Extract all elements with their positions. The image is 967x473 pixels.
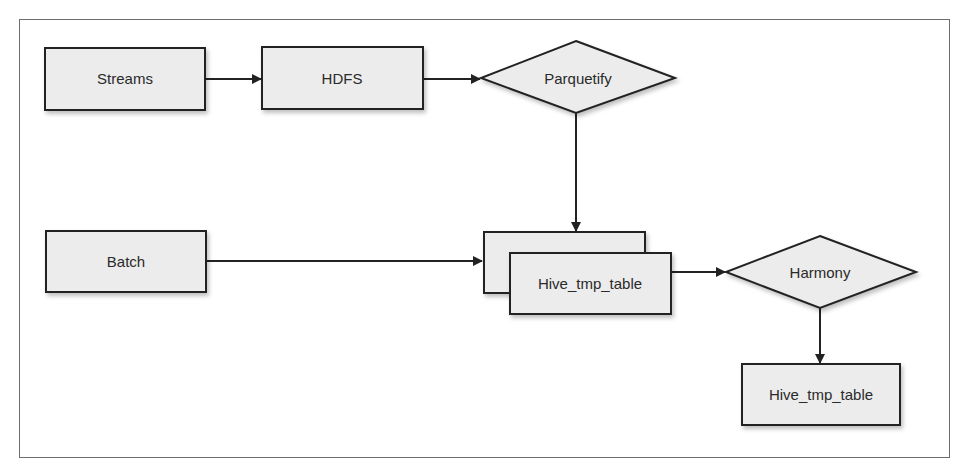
node-hdfs: HDFS: [262, 47, 423, 109]
node-streams: Streams: [45, 48, 205, 110]
node-harmony: Harmony: [726, 236, 916, 308]
node-batch-label: Batch: [107, 253, 145, 270]
edges: [205, 79, 820, 363]
node-batch: Batch: [46, 231, 206, 292]
node-hive-tmp-table-stack: Hive_tmp_table: [484, 232, 671, 314]
node-parquetify-label: Parquetify: [544, 70, 612, 87]
node-hive-tmp-table-output: Hive_tmp_table: [742, 364, 900, 425]
node-harmony-label: Harmony: [790, 264, 851, 281]
node-hive-tmp-table-stack-label: Hive_tmp_table: [538, 275, 642, 292]
node-hive-tmp-table-output-label: Hive_tmp_table: [769, 386, 873, 403]
flow-diagram: Streams HDFS Parquetify Batch Hive_tmp_t…: [0, 0, 967, 473]
node-streams-label: Streams: [97, 70, 153, 87]
node-parquetify: Parquetify: [481, 41, 675, 113]
node-hdfs-label: HDFS: [322, 70, 363, 87]
